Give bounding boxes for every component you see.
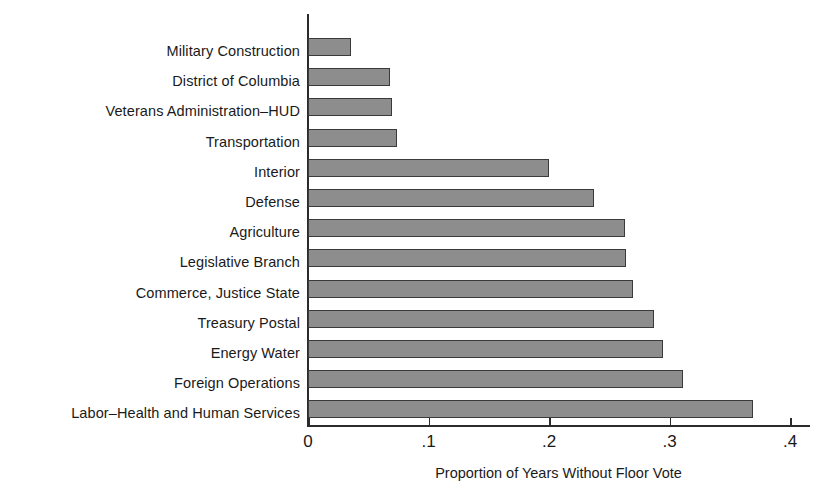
x-tick-label: .4 [760, 432, 820, 452]
x-tick-label: .1 [399, 432, 459, 452]
x-tick-mark [308, 418, 310, 426]
x-tick-mark [429, 418, 431, 426]
x-tick-label: 0 [278, 432, 338, 452]
x-tick-mark [790, 418, 792, 426]
x-tick-label: .2 [519, 432, 579, 452]
x-tick-label: .3 [640, 432, 700, 452]
bar-chart: Military ConstructionDistrict of Columbi… [0, 0, 821, 495]
x-tick-mark [549, 418, 551, 426]
x-axis-ticks: 0.1.2.3.4 [0, 0, 821, 495]
x-axis-title: Proportion of Years Without Floor Vote [307, 464, 810, 482]
x-tick-mark [670, 418, 672, 426]
